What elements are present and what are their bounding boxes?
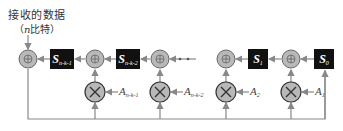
coefficient-a-n-k-1: An-k-1 — [119, 85, 138, 98]
input-label-line1: 接收的数据 — [8, 6, 66, 22]
input-label-line2: （n比特） — [14, 21, 60, 36]
coefficient-a-1: A1 — [315, 85, 325, 98]
register-s-1: S1 — [248, 49, 268, 69]
coefficient-a-2: A2 — [250, 85, 260, 98]
register-s-n-k-2: Sn-k-2 — [116, 49, 140, 69]
register-s-n-k-1: Sn-k-1 — [50, 49, 74, 69]
register-s-0: S0 — [314, 49, 334, 69]
coefficient-a-n-k-2: An-k-2 — [184, 85, 203, 98]
